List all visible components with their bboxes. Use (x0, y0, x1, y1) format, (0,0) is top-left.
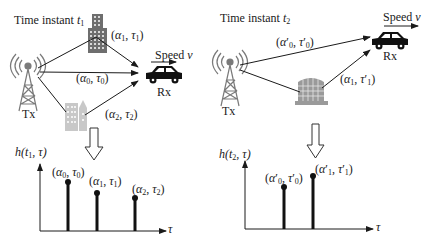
suffix: , τ) (32, 145, 46, 159)
path-label-alpha2-tau2: (α2, τ2) (105, 108, 138, 124)
speed-var: v (187, 48, 192, 62)
stem-label-alpha1p-tau1p: (α′1, τ′1) (315, 163, 353, 179)
paren: ) (134, 107, 138, 121)
paren: ) (118, 174, 122, 188)
suffix: , τ) (236, 147, 250, 161)
path-label-alpha1-tau1p: (α1, τ′1) (340, 73, 375, 89)
diagram-canvas (0, 0, 429, 245)
speed-text: Speed (383, 10, 415, 24)
tx-label-left: Tx (22, 108, 35, 121)
plot-ylabel-right: h(t2, τ) (219, 148, 251, 164)
stem-label-alpha2-tau2: (α2, τ2) (132, 183, 165, 199)
x-axis-label-left: τ (168, 223, 172, 236)
speed-label-right: Speed v (383, 11, 421, 24)
paren: ) (140, 28, 144, 42)
path-label-alpha1-tau1: (α1, τ1) (111, 29, 144, 45)
paren: ) (310, 35, 314, 49)
paren: ) (299, 171, 303, 185)
speed-text: Speed (155, 48, 187, 62)
tx-tower-icon (11, 54, 46, 111)
title-text: Time instant (14, 13, 77, 27)
car-rx-icon (146, 66, 182, 84)
tall-building-icon (88, 14, 107, 53)
speed-label-left: Speed v (155, 49, 193, 62)
stem-label-alpha0-tau0: (α0, τ0) (52, 166, 85, 182)
tx-label-right: Tx (222, 105, 235, 118)
paren: ) (105, 71, 109, 85)
stem-label-alpha0p-tau0p: (α′0, τ′0) (265, 172, 303, 188)
h: h( (15, 145, 25, 159)
path-label-alpha0p-tau0p: (α′0, τ′0) (276, 36, 314, 52)
rx-label-right: Rx (383, 50, 397, 63)
stem-label-alpha1-tau1: (α1, τ1) (89, 175, 122, 191)
rx-label-left: Rx (157, 86, 171, 99)
paren: ) (161, 182, 165, 196)
down-arrow-icon (85, 128, 103, 160)
paren: ) (349, 162, 353, 176)
title-text: Time instant (220, 11, 283, 25)
time-instant-title-left: Time instant t1 (14, 14, 84, 30)
path-label-alpha0-tau0: (α0, τ0) (76, 72, 109, 88)
light-buildings-icon (65, 100, 87, 131)
time-instant-title-right: Time instant t2 (220, 12, 290, 28)
speed-var: v (415, 10, 420, 24)
x-axis-label-right: τ (376, 221, 380, 234)
paren: ) (81, 165, 85, 179)
tx-tower-icon (213, 50, 248, 106)
car-rx-icon (372, 32, 408, 50)
h: h( (219, 147, 229, 161)
plot-ylabel-left: h(t1, τ) (15, 146, 47, 162)
down-arrow-icon (307, 124, 324, 158)
paren: ) (371, 72, 375, 86)
title-sub: 1 (80, 19, 84, 28)
title-sub: 2 (286, 17, 290, 26)
